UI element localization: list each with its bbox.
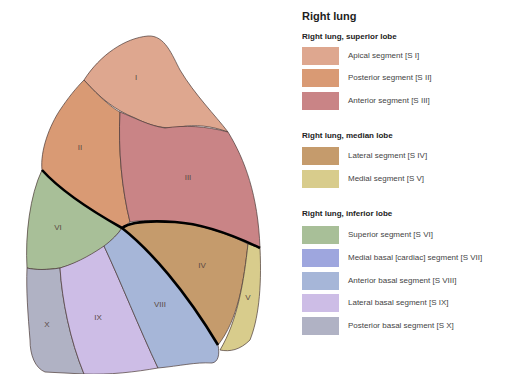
legend-item: Anterior segment [S III]	[302, 92, 517, 110]
legend: Right lung Right lung, superior lobe Api…	[302, 0, 517, 374]
swatch-medial-basal	[302, 249, 339, 267]
group-title-inferior: Right lung, inferior lobe	[302, 209, 392, 218]
legend-label: Superior segment [S VI]	[348, 230, 433, 239]
label-x: X	[44, 320, 50, 329]
legend-label: Lateral segment [S IV]	[348, 151, 427, 160]
label-v: V	[245, 293, 251, 302]
legend-label: Anterior segment [S III]	[348, 96, 430, 105]
swatch-superior	[302, 226, 339, 244]
legend-item: Anterior basal segment [S VIII]	[302, 272, 517, 290]
legend-item: Posterior basal segment [S X]	[302, 317, 517, 335]
swatch-lateral	[302, 147, 339, 165]
label-iv: IV	[198, 261, 206, 270]
swatch-medial	[302, 170, 339, 188]
legend-label: Posterior basal segment [S X]	[348, 321, 454, 330]
label-ii: II	[78, 143, 82, 152]
legend-label: Anterior basal segment [S VIII]	[348, 276, 457, 285]
legend-label: Lateral basal segment [S IX]	[348, 298, 449, 307]
label-iii: III	[185, 173, 192, 182]
legend-title: Right lung	[302, 10, 356, 22]
swatch-posterior-basal	[302, 317, 339, 335]
swatch-apical	[302, 47, 339, 65]
right-lung-diagram: I II III IV V VI VIII IX X	[0, 0, 300, 374]
group-title-superior: Right lung, superior lobe	[302, 32, 397, 41]
legend-label: Medial basal [cardiac] segment [S VII]	[348, 253, 482, 262]
label-i: I	[135, 73, 137, 82]
legend-item: Posterior segment [S II]	[302, 69, 517, 87]
legend-label: Medial segment [S V]	[348, 174, 424, 183]
label-vi: VI	[54, 223, 62, 232]
group-title-median: Right lung, median lobe	[302, 131, 393, 140]
swatch-anterior	[302, 92, 339, 110]
swatch-posterior	[302, 69, 339, 87]
legend-label: Apical segment [S I]	[348, 51, 419, 60]
legend-item: Lateral segment [S IV]	[302, 147, 517, 165]
label-viii: VIII	[154, 300, 166, 309]
label-ix: IX	[94, 313, 102, 322]
legend-item: Lateral basal segment [S IX]	[302, 294, 517, 312]
legend-item: Apical segment [S I]	[302, 47, 517, 65]
legend-item: Superior segment [S VI]	[302, 226, 517, 244]
swatch-anterior-basal	[302, 272, 339, 290]
swatch-lateral-basal	[302, 294, 339, 312]
legend-label: Posterior segment [S II]	[348, 73, 432, 82]
legend-item: Medial segment [S V]	[302, 170, 517, 188]
legend-item: Medial basal [cardiac] segment [S VII]	[302, 249, 517, 267]
